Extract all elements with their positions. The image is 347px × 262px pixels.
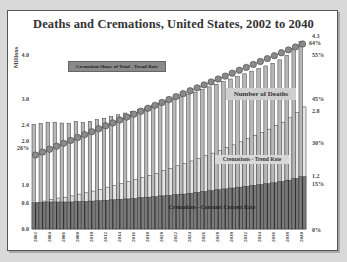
share-marker <box>194 85 200 91</box>
x-tick-label: 2032 <box>243 232 248 242</box>
share-marker <box>271 52 277 58</box>
share-marker <box>201 82 207 88</box>
right-value-4.3: 4.3 <box>312 33 320 39</box>
share-marker <box>278 50 284 56</box>
share-marker <box>208 79 214 85</box>
share-marker <box>67 137 73 143</box>
share-marker <box>96 126 102 132</box>
share-marker <box>285 47 291 53</box>
legend-cremation-share: Cremation Share of Total - Trend Rate <box>68 61 166 72</box>
share-marker <box>292 44 298 50</box>
y-tick-2.4: 2.4 <box>7 122 29 128</box>
x-tick-label: 2016 <box>131 232 136 242</box>
x-tick-label: 2026 <box>201 232 206 242</box>
right-pct-30: 30% <box>312 140 324 146</box>
legend-cremations-constant: Cremations - Constant Current Rate <box>152 203 272 212</box>
share-marker <box>243 64 249 70</box>
x-tick-label: 2014 <box>117 232 122 242</box>
share-marker <box>53 143 59 149</box>
right-pct-55: 55% <box>312 52 324 58</box>
y-tick-4.0: 4.0 <box>7 52 29 58</box>
legend-number-of-deaths: Number of Deaths <box>226 88 296 100</box>
share-marker <box>60 140 66 146</box>
share-marker <box>180 90 186 96</box>
share-marker <box>117 117 123 123</box>
share-marker <box>89 128 95 134</box>
share-marker <box>229 70 235 76</box>
right-pct-0: 0% <box>312 227 321 233</box>
x-tick-label: 2040 <box>299 232 304 242</box>
x-tick-label: 2004 <box>47 232 52 242</box>
x-tick-label: 2030 <box>229 232 234 242</box>
share-marker <box>110 120 116 126</box>
x-tick-label: 2020 <box>159 232 164 242</box>
right-pct-64: 64% <box>309 40 321 46</box>
share-marker <box>74 134 80 140</box>
x-tick-label: 2022 <box>173 232 178 242</box>
x-tick-label: 2006 <box>61 232 66 242</box>
x-tick-label: 2024 <box>187 232 192 242</box>
share-marker <box>250 61 256 67</box>
x-tick-label: 2008 <box>75 232 80 242</box>
right-pct-45: 45% <box>312 96 324 102</box>
share-marker <box>81 131 87 137</box>
share-marker <box>131 111 137 117</box>
x-tick-label: 2018 <box>145 232 150 242</box>
share-marker <box>46 146 52 152</box>
share-marker <box>166 96 172 102</box>
share-marker <box>264 55 270 61</box>
share-marker <box>215 76 221 82</box>
y-tick-0.0: 0.0 <box>7 226 29 232</box>
y-label-26pct: 26% <box>7 145 29 151</box>
share-marker <box>257 58 263 64</box>
x-tick-label: 2028 <box>215 232 220 242</box>
x-tick-label: 2002 <box>33 232 38 242</box>
share-marker <box>39 149 45 155</box>
legend-cremations-trend: Cremations - Trend Rate <box>215 155 289 164</box>
share-marker <box>159 99 165 105</box>
right-value-2.8: 2.8 <box>312 108 320 114</box>
share-marker <box>124 114 130 120</box>
share-marker <box>145 105 151 111</box>
share-marker <box>222 73 228 79</box>
share-marker <box>152 102 158 108</box>
x-tick-label: 2036 <box>271 232 276 242</box>
x-tick-label: 2010 <box>89 232 94 242</box>
y-tick-1.0: 1.0 <box>7 182 29 188</box>
share-marker <box>103 123 109 129</box>
y-tick-2.0: 2.0 <box>7 138 29 144</box>
y-tick-0.6: 0.6 <box>7 200 29 206</box>
x-tick-label: 2034 <box>257 232 262 242</box>
right-value-1.2: 1.2 <box>312 173 320 179</box>
share-marker <box>236 67 242 73</box>
chart-plot <box>0 0 347 262</box>
share-marker <box>187 88 193 94</box>
share-marker <box>299 41 305 47</box>
x-tick-label: 2012 <box>103 232 108 242</box>
right-pct-15: 15% <box>312 181 324 187</box>
share-marker <box>173 93 179 99</box>
share-marker <box>138 108 144 114</box>
share-marker <box>32 152 38 158</box>
y-tick-3.0: 3.0 <box>7 96 29 102</box>
x-tick-label: 2038 <box>285 232 290 242</box>
